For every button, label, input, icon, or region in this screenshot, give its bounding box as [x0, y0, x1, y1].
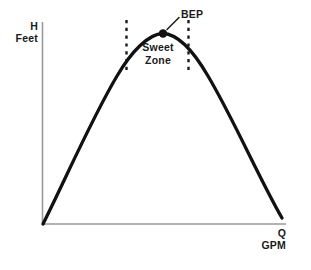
- x-axis-label: Q GPM: [220, 228, 286, 251]
- y-axis-label-symbol: H: [0, 21, 38, 32]
- sweet-zone-label-line2: Zone: [128, 55, 188, 66]
- x-axis-label-units: GPM: [220, 240, 286, 251]
- bep-point-marker: [159, 29, 167, 37]
- sweet-zone-label-line1: Sweet: [128, 42, 188, 53]
- y-axis-label: H Feet: [0, 21, 38, 44]
- bep-leader-line: [167, 18, 179, 30]
- bep-annotation-label: BEP: [181, 9, 203, 20]
- x-axis-label-symbol: Q: [220, 228, 286, 239]
- y-axis-label-units: Feet: [0, 33, 38, 44]
- sweet-zone-annotation-label: Sweet Zone: [128, 42, 188, 66]
- pump-curve-chart: H Feet Q GPM BEP Sweet Zone: [0, 0, 311, 270]
